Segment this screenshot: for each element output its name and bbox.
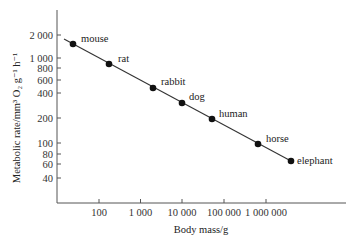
y-tick-label: 400	[37, 88, 53, 99]
x-axis-title: Body mass/g	[174, 224, 229, 235]
y-axis-title: Metabolic rate/mm³ O₂ g⁻¹ h⁻¹	[11, 53, 22, 183]
y-tick-label: 2 000	[29, 30, 53, 41]
point-label: horse	[266, 133, 289, 144]
x-tick-label: 1 000	[129, 207, 153, 218]
y-tick-label: 60	[43, 159, 54, 170]
point-marker	[70, 41, 77, 48]
y-axis-ticks: 2 0001 000800600400200100806040	[29, 30, 61, 184]
point-label: mouse	[81, 33, 109, 44]
point-marker	[150, 85, 157, 92]
point-marker	[106, 61, 113, 68]
data-point-rat: rat	[106, 53, 129, 67]
y-tick-label: 800	[37, 63, 53, 74]
x-tick-label: 1 000 000	[245, 207, 287, 218]
x-tick-label: 100 000	[207, 207, 241, 218]
point-marker	[255, 141, 262, 148]
y-tick-label: 100	[37, 138, 53, 149]
y-tick-label: 40	[43, 173, 54, 184]
data-point-human: human	[209, 108, 249, 122]
point-label: rat	[118, 53, 129, 64]
data-point-rabbit: rabbit	[150, 76, 186, 91]
point-label: rabbit	[161, 76, 186, 87]
data-points: mouseratrabbitdoghumanhorseelephant	[70, 33, 333, 166]
point-label: dog	[189, 91, 206, 102]
point-marker	[179, 100, 186, 107]
data-point-dog: dog	[179, 91, 206, 106]
y-tick-label: 200	[37, 113, 53, 124]
x-tick-label: 100	[91, 207, 107, 218]
point-label: elephant	[297, 155, 333, 166]
data-point-elephant: elephant	[288, 155, 333, 166]
data-point-mouse: mouse	[70, 33, 109, 47]
point-marker	[209, 116, 216, 123]
x-tick-label: 10 000	[168, 207, 197, 218]
x-axis-ticks: 1001 00010 000100 0001 000 000	[91, 199, 287, 218]
y-tick-label: 600	[37, 75, 53, 86]
point-label: human	[219, 108, 248, 119]
point-marker	[288, 158, 295, 165]
data-point-horse: horse	[255, 133, 289, 147]
metabolic-rate-chart: 2 0001 000800600400200100806040 1001 000…	[0, 0, 351, 242]
